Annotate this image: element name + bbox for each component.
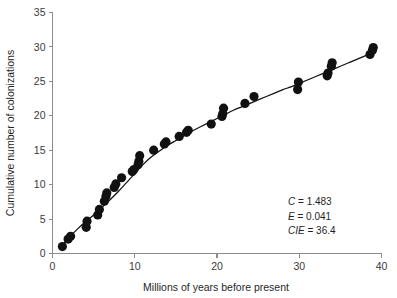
chart-figure: 010203040 05101520253035 C = 1.483E = 0.… bbox=[0, 0, 397, 298]
x-tick-labels: 010203040 bbox=[50, 260, 388, 272]
x-tick-label: 20 bbox=[211, 260, 223, 272]
data-point bbox=[82, 217, 91, 226]
scatter-plot: 010203040 05101520253035 C = 1.483E = 0.… bbox=[0, 0, 397, 298]
y-tick-label: 5 bbox=[40, 213, 46, 225]
tick-marks-layer bbox=[49, 13, 382, 258]
data-point bbox=[149, 146, 158, 155]
data-point bbox=[294, 77, 303, 86]
x-axis-title: Millions of years before present bbox=[143, 281, 289, 293]
y-axis-title: Cumulative number of colonizations bbox=[4, 50, 16, 216]
annotation-block: C = 1.483E = 0.041CIE = 36.4 bbox=[288, 196, 336, 236]
annotation-line: E = 0.041 bbox=[288, 211, 332, 222]
annotation-line: CIE = 36.4 bbox=[288, 225, 336, 236]
data-point bbox=[249, 92, 258, 101]
x-tick-label: 40 bbox=[376, 260, 388, 272]
y-tick-label: 15 bbox=[34, 144, 46, 156]
y-tick-label: 25 bbox=[34, 75, 46, 87]
data-point bbox=[161, 137, 170, 146]
data-point bbox=[66, 232, 75, 241]
x-tick-label: 0 bbox=[50, 260, 56, 272]
annotation-line: C = 1.483 bbox=[288, 196, 332, 207]
data-point bbox=[117, 173, 126, 182]
x-tick-label: 10 bbox=[129, 260, 141, 272]
data-point bbox=[95, 205, 104, 214]
y-tick-labels: 05101520253035 bbox=[34, 6, 46, 259]
data-point bbox=[219, 104, 228, 113]
annotation-value: = 1.483 bbox=[295, 196, 332, 207]
x-tick-label: 30 bbox=[293, 260, 305, 272]
y-tick-label: 10 bbox=[34, 178, 46, 190]
annotation-value: = 36.4 bbox=[305, 225, 336, 236]
data-point bbox=[58, 242, 67, 251]
annotation-variable: CIE bbox=[288, 225, 305, 236]
y-tick-label: 0 bbox=[40, 247, 46, 259]
data-point bbox=[240, 99, 249, 108]
data-point bbox=[328, 58, 337, 67]
axes-layer bbox=[53, 13, 382, 254]
data-point bbox=[102, 188, 111, 197]
y-tick-label: 35 bbox=[34, 6, 46, 18]
data-point bbox=[369, 43, 378, 52]
data-point bbox=[184, 126, 193, 135]
y-tick-label: 20 bbox=[34, 109, 46, 121]
y-tick-label: 30 bbox=[34, 41, 46, 53]
annotation-value: = 0.041 bbox=[295, 211, 332, 222]
data-point bbox=[207, 119, 216, 128]
data-point bbox=[135, 151, 144, 160]
